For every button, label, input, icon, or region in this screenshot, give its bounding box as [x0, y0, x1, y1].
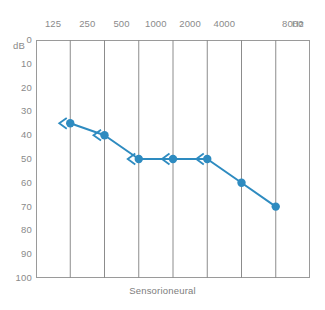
frequency-tick-500: 500: [105, 18, 139, 29]
data-series-layer: [59, 118, 280, 211]
decibel-tick-10: 10: [21, 58, 32, 69]
decibel-tick-20: 20: [21, 82, 32, 93]
frequency-tick-250: 250: [70, 18, 104, 29]
audiogram-chart: 1252505001000200040008000 Hz 01020304050…: [0, 0, 325, 310]
decibel-tick-80: 80: [21, 224, 32, 235]
bone-conduction-left-marker-icon: [128, 154, 136, 165]
decibel-tick-100: 100: [16, 272, 32, 283]
decibel-tick-50: 50: [21, 153, 32, 164]
bone-conduction-left-marker-icon: [59, 118, 67, 129]
data-point-circle-icon: [272, 202, 280, 210]
frequency-tick-125: 125: [36, 18, 70, 29]
decibel-tick-90: 90: [21, 248, 32, 259]
data-point-8000hz[interactable]: [272, 202, 280, 210]
frequency-tick-1000: 1000: [139, 18, 173, 29]
data-point-circle-icon: [203, 155, 211, 163]
decibel-tick-60: 60: [21, 177, 32, 188]
decibel-tick-30: 30: [21, 105, 32, 116]
decibel-tick-40: 40: [21, 129, 32, 140]
frequency-tick-4000: 4000: [207, 18, 241, 29]
data-point-1000hz[interactable]: [128, 154, 143, 165]
data-point-circle-icon: [169, 155, 177, 163]
data-point-circle-icon: [66, 119, 74, 127]
data-point-circle-icon: [237, 179, 245, 187]
decibel-unit-label: dB: [13, 40, 25, 51]
decibel-tick-70: 70: [21, 201, 32, 212]
frequency-tick-2000: 2000: [173, 18, 207, 29]
frequency-unit-label: Hz: [292, 18, 304, 29]
data-point-250hz[interactable]: [59, 118, 74, 129]
decibel-tick-0: 0: [27, 34, 32, 45]
plot-svg: [36, 40, 310, 278]
data-point-circle-icon: [135, 155, 143, 163]
data-point-circle-icon: [100, 131, 108, 139]
data-point-6000hz[interactable]: [237, 179, 245, 187]
chart-caption: Sensorioneural: [0, 285, 325, 296]
